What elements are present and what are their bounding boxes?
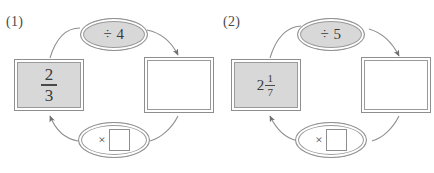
- arrow-curve-top-entry: [50, 28, 80, 58]
- start-value-box[interactable]: 2 1 7: [231, 59, 301, 111]
- flow-diagram-1: (1) 2 3 ÷ 4 ×: [0, 0, 217, 173]
- result-answer-box[interactable]: [361, 57, 431, 113]
- diagram-index-label: (2): [223, 14, 240, 30]
- arrow-curve-bottom-entry: [372, 116, 399, 141]
- multiply-operand-blank-input[interactable]: [326, 129, 347, 151]
- arrow-curve-top-entry: [270, 26, 301, 58]
- divide-operation-ellipse[interactable]: ÷ 5: [297, 18, 365, 51]
- arrow-top-to-result: [369, 29, 399, 56]
- multiply-icon: ×: [98, 132, 105, 148]
- fraction-value: 2 3: [41, 66, 57, 103]
- divide-operation-ellipse[interactable]: ÷ 4: [80, 18, 148, 51]
- mixed-number-value: 2 1 7: [257, 73, 276, 98]
- arrow-curve-bottom-entry: [150, 116, 178, 141]
- multiply-operation-group: ×: [98, 129, 129, 151]
- multiply-operation-ellipse[interactable]: ×: [295, 122, 367, 158]
- multiply-operation-group: ×: [315, 129, 346, 151]
- divide-operation-label: ÷ 5: [321, 27, 342, 42]
- multiply-operand-blank-input[interactable]: [109, 129, 130, 151]
- multiply-operation-ellipse[interactable]: ×: [78, 122, 150, 158]
- result-answer-box[interactable]: [144, 57, 214, 113]
- fraction-part: 1 7: [265, 73, 275, 98]
- start-value-box[interactable]: 2 3: [14, 59, 84, 111]
- arrow-top-to-result: [147, 30, 178, 55]
- arrow-bottom-to-start: [50, 116, 78, 141]
- diagram-index-label: (1): [6, 14, 23, 30]
- divide-operation-label: ÷ 4: [104, 27, 125, 42]
- flow-diagram-2: (2) 2 1 7 ÷ 5 ×: [217, 0, 434, 173]
- multiply-icon: ×: [315, 132, 322, 148]
